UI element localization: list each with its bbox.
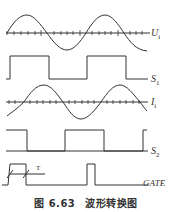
waveform-conversion-figure: Ui S1 Ii S2 GATE T 图 6.63波形转换图 xyxy=(0,0,172,212)
caption-title: 波形转换图 xyxy=(85,198,138,209)
gate-label: GATE xyxy=(143,179,165,188)
ui-label: Ui xyxy=(151,28,160,41)
figure-caption: 图 6.63波形转换图 xyxy=(0,195,172,210)
caption-number: 图 6.63 xyxy=(34,198,75,209)
s1-waveform xyxy=(6,56,148,79)
s2-label: S2 xyxy=(151,146,160,159)
s2-waveform xyxy=(6,130,148,151)
period-t-label: T xyxy=(36,165,40,172)
ii-label: Ii xyxy=(151,97,156,110)
s1-label: S1 xyxy=(151,74,160,87)
